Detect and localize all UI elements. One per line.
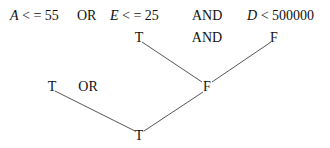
node-middle-right: F <box>203 80 211 94</box>
term-a: A < = 55 <box>10 9 59 23</box>
term-d: D < 500000 <box>247 9 314 23</box>
operator-or: OR <box>77 9 96 23</box>
term-e: E < = 25 <box>110 9 159 23</box>
node-upper-op: AND <box>192 31 222 45</box>
node-root: T <box>135 129 144 143</box>
node-middle-left: T <box>48 80 57 94</box>
node-middle-op: OR <box>78 80 97 94</box>
node-upper-right: F <box>270 31 278 45</box>
operator-and: AND <box>192 9 222 23</box>
node-upper-left: T <box>135 31 144 45</box>
